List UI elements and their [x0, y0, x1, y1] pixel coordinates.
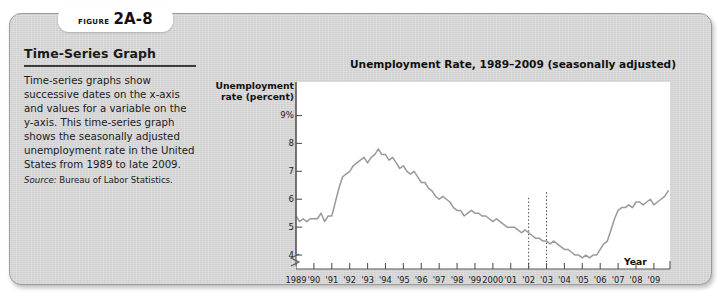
x-tick-label: '09 — [634, 275, 674, 285]
x-tick-marks — [296, 263, 654, 269]
source-text: Bureau of Labor Statistics. — [59, 175, 172, 185]
panel-body-text: Time-series graphs show successive dates… — [24, 74, 198, 173]
y-tick-marks — [296, 115, 302, 255]
figure-card: Figure2A-8 Time-Series Graph Time-series… — [9, 13, 712, 285]
chart-title: Unemployment Rate, 1989–2009 (seasonally… — [350, 58, 676, 70]
y-tick-label: 5 — [264, 222, 294, 232]
y-tick-labels: 9%87654 — [258, 82, 294, 272]
y-tick-label: 8 — [264, 138, 294, 148]
chart-annotations — [529, 192, 547, 269]
chart-container: Unemployment Rate, 1989–2009 (seasonally… — [214, 32, 710, 282]
panel-source: Source: Bureau of Labor Statistics. — [24, 175, 209, 185]
y-tick-label: 9% — [264, 110, 294, 120]
figure-tab: Figure2A-8 — [58, 6, 173, 32]
y-tick-label: 4 — [264, 250, 294, 260]
source-label: Source: — [24, 175, 57, 185]
x-axis-title: Year — [624, 256, 647, 267]
y-tick-label: 7 — [264, 166, 294, 176]
figure-tab-word: Figure — [78, 14, 109, 26]
plot-area — [296, 82, 670, 269]
y-tick-label: 6 — [264, 194, 294, 204]
unemployment-rate-line — [296, 149, 668, 258]
unemployment-line-chart — [296, 82, 670, 269]
figure-tab-number: 2A-8 — [113, 10, 153, 28]
figure-left-panel: Time-Series Graph Time-series graphs sho… — [24, 46, 214, 185]
panel-divider — [24, 65, 196, 67]
panel-heading: Time-Series Graph — [24, 46, 214, 65]
